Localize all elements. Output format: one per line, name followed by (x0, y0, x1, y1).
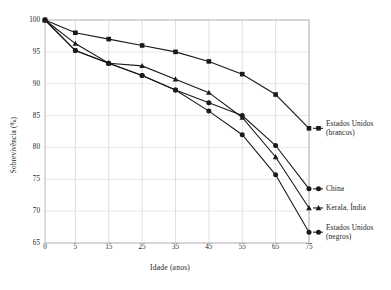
series-label-1: China (326, 184, 344, 193)
series-3 (43, 18, 324, 235)
series-label-3: Estados Unidos (negros) (326, 223, 374, 242)
plot-area (0, 0, 391, 290)
survival-curve-chart: Sobrevivência (%) Idade (anos) 657075808… (0, 0, 391, 290)
series-label-0: Estados Unidos (brancos) (326, 119, 374, 138)
series-2 (42, 17, 323, 210)
series-label-2: Kerala, Índia (326, 203, 366, 212)
data-series-layer (42, 17, 323, 235)
series-0 (43, 18, 323, 131)
